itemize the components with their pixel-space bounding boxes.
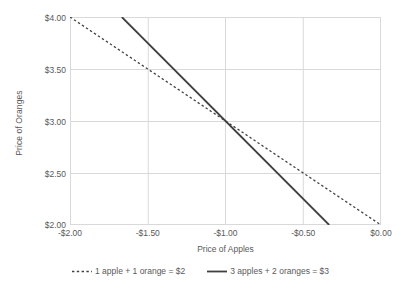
x-tick-label: -$1.00 [191, 228, 261, 238]
y-tick-label: $2.50 [6, 169, 66, 179]
plot-svg [70, 17, 381, 225]
x-tick-label: -$2.00 [35, 228, 105, 238]
y-axis-tick-labels: $4.00 $3.50 $3.00 $2.50 $2.00 [4, 0, 66, 298]
legend-solid-line-icon [207, 267, 227, 275]
y-tick-label: $3.00 [6, 117, 66, 127]
x-axis-title: Price of Apples [70, 244, 381, 254]
plot-area [70, 17, 381, 225]
x-tick-label: $0.00 [346, 228, 401, 238]
x-axis-tick-labels: -$2.00 -$1.50 -$1.00 -$0.50 $0.00 [0, 228, 401, 242]
x-tick-label: -$0.50 [268, 228, 338, 238]
x-tick-label: -$1.50 [113, 228, 183, 238]
legend-label: 3 apples + 2 oranges = $3 [230, 266, 329, 276]
chart-container: Price of Oranges $4.00 $3.50 $3.00 $2.50… [0, 0, 401, 298]
legend-item-budget-1[interactable]: 1 apple + 1 orange = $2 [72, 266, 185, 276]
legend-item-budget-2[interactable]: 3 apples + 2 oranges = $3 [207, 266, 329, 276]
legend-label: 1 apple + 1 orange = $2 [95, 266, 185, 276]
y-tick-label: $3.50 [6, 65, 66, 75]
legend-dotted-line-icon [72, 267, 92, 275]
y-tick-label: $4.00 [6, 13, 66, 23]
chart-legend: 1 apple + 1 orange = $2 3 apples + 2 ora… [0, 266, 401, 276]
